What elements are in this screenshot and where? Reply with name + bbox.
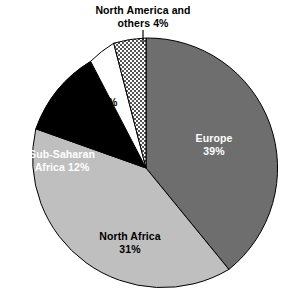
slice-label-north-america-name: North America and — [62, 4, 224, 17]
slice-label-north-africa-value: 31% — [78, 243, 182, 256]
slice-label-sub-saharan-africa-name: Sub-Saharan — [8, 148, 116, 161]
slice-label-sub-saharan-africa: Sub-Saharan Africa 12% — [8, 148, 116, 173]
slice-label-north-africa-name: North Africa — [78, 230, 182, 243]
slice-label-north-africa: North Africa 31% — [78, 230, 182, 255]
slice-label-asia: Asia 14% — [48, 96, 140, 109]
slice-label-europe-value: 39% — [178, 145, 250, 158]
slice-label-europe-name: Europe — [178, 132, 250, 145]
slice-label-europe: Europe 39% — [178, 132, 250, 157]
slice-label-asia-name: Asia 14% — [48, 96, 140, 109]
slice-label-sub-saharan-africa-value: Africa 12% — [8, 161, 116, 174]
pie-chart: Europe 39% North Africa 31% Sub-Saharan … — [0, 0, 288, 303]
slice-label-north-america-value: others 4% — [62, 17, 224, 30]
slice-label-north-america-and-others: North America and others 4% — [62, 4, 224, 29]
